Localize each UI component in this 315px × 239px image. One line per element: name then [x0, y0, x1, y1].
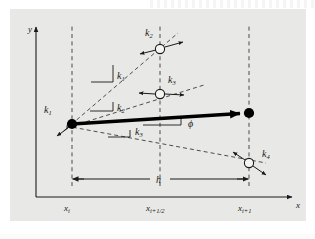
- phi-angle-label: ϕ: [188, 118, 193, 129]
- page-bleed-bottom: [0, 234, 315, 239]
- k3-triangle-label: k3: [135, 126, 143, 138]
- tick-label-x-i-half: xi+1/2: [145, 203, 165, 214]
- node-markers: [67, 44, 254, 167]
- x-i-start-point: [67, 119, 77, 129]
- k1-triangle-label: k1: [117, 70, 125, 82]
- k3-node-label: k3: [168, 74, 176, 86]
- k3-slope-triangle: [108, 130, 130, 137]
- k4-endpoint-node: [244, 158, 253, 167]
- x-axis-label: x: [295, 200, 300, 210]
- tick-label-x-i: xi: [63, 203, 70, 214]
- k3-ray: [66, 126, 266, 163]
- k2-midpoint-node: [155, 44, 164, 53]
- k2-triangle-label: k2: [117, 102, 125, 114]
- node-slope-arrows: [57, 42, 266, 175]
- k1-slope-triangle: [91, 65, 113, 82]
- average-slope-arrow: [72, 114, 240, 125]
- k1-slope-arrow-start: [57, 128, 68, 136]
- x-i-plus-1-end-point: [244, 108, 254, 118]
- figure-root: y x k1 k2 k3 k4 k1 k2 k3: [0, 0, 315, 239]
- step-size-label: h: [156, 174, 161, 185]
- k3-slope-arrow-right: [165, 94, 184, 95]
- k1-origin-label: k1: [44, 104, 52, 116]
- tick-label-x-i-plus-1: xi+1: [237, 203, 251, 214]
- k3-midpoint-node: [155, 89, 164, 98]
- k4-slope-arrow-downright: [253, 166, 266, 175]
- k2-slope-arrow-right: [165, 42, 183, 47]
- k2-slope-triangle: [90, 102, 113, 111]
- diagram-canvas: y x k1 k2 k3 k4 k1 k2 k3: [0, 0, 315, 239]
- k4-slope-arrow-upleft: [233, 152, 245, 160]
- k3-slope-arrow-left: [139, 93, 155, 94]
- y-axis-label: y: [27, 24, 32, 34]
- k2-node-label: k2: [145, 27, 153, 39]
- k4-node-label: k4: [262, 148, 270, 160]
